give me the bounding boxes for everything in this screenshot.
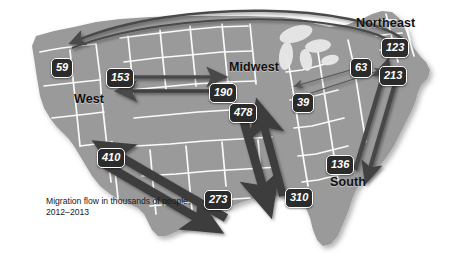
flow-badge-39: 39 — [292, 93, 314, 113]
migration-flow-map: West Midwest South Northeast 59 123 153 … — [0, 0, 449, 278]
flow-badge-478: 478 — [229, 103, 257, 123]
flow-badge-190: 190 — [209, 83, 237, 103]
flow-badge-310: 310 — [285, 188, 313, 208]
flow-badge-59: 59 — [51, 58, 73, 78]
flow-badge-153: 153 — [106, 68, 134, 88]
flow-badge-213: 213 — [379, 66, 407, 86]
map-caption: Migration flow in thousands of people, 2… — [46, 196, 206, 217]
flow-badge-63: 63 — [350, 58, 372, 78]
region-label-midwest: Midwest — [229, 60, 279, 74]
flow-badge-273: 273 — [204, 190, 232, 210]
region-label-west: West — [74, 92, 104, 106]
flow-badge-136: 136 — [326, 155, 354, 175]
flow-badge-410: 410 — [97, 148, 125, 168]
region-label-south: South — [330, 175, 366, 189]
flow-badge-123: 123 — [381, 38, 409, 58]
region-label-northeast: Northeast — [356, 16, 415, 30]
